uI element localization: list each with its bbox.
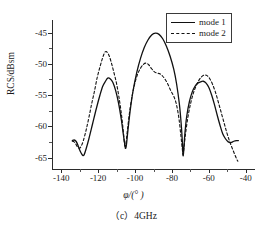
x-tick-label: -40 — [240, 174, 252, 183]
y-tick-minor — [49, 111, 52, 112]
y-tick — [48, 158, 52, 159]
legend-key-solid-icon — [171, 19, 195, 27]
legend-label-mode-1: mode 1 — [199, 18, 226, 27]
series-line-mode-1 — [72, 33, 238, 156]
x-axis-title-text: φ/(° ) — [123, 190, 143, 200]
x-tick-label: -80 — [166, 174, 178, 183]
x-tick-label: -60 — [203, 174, 215, 183]
x-tick-minor — [227, 169, 228, 172]
x-tick-minor — [190, 169, 191, 172]
x-axis-title: φ/(° ) — [0, 190, 267, 200]
x-tick-label: -120 — [90, 174, 107, 183]
y-tick — [48, 95, 52, 96]
y-tick — [48, 64, 52, 65]
y-tick-label: -65 — [35, 153, 47, 162]
x-tick-minor — [117, 169, 118, 172]
y-tick-label: -60 — [35, 122, 47, 131]
x-tick-minor — [80, 169, 81, 172]
legend-item-mode-1: mode 1 — [171, 17, 226, 28]
legend-item-mode-2: mode 2 — [171, 28, 226, 39]
x-tick-label: -100 — [127, 174, 144, 183]
figure-caption: （c）4GHz — [0, 208, 267, 222]
x-tick-minor — [154, 169, 155, 172]
figure-rcs-4ghz: -45-50-55-60-65-140-120-100-80-60-40 RCS… — [0, 0, 267, 228]
legend-label-mode-2: mode 2 — [199, 29, 226, 38]
y-tick — [48, 33, 52, 34]
y-tick-minor — [49, 142, 52, 143]
y-axis-line — [52, 20, 53, 170]
x-tick-label: -140 — [53, 174, 70, 183]
legend-key-dashed-icon — [171, 30, 195, 38]
y-tick — [48, 126, 52, 127]
y-axis-title: RCS/dBsm — [6, 52, 16, 95]
y-tick-label: -45 — [35, 28, 47, 37]
legend: mode 1 mode 2 — [166, 13, 232, 43]
y-tick-label: -55 — [35, 91, 47, 100]
y-tick-label: -50 — [35, 59, 47, 68]
y-tick-minor — [49, 79, 52, 80]
y-tick-minor — [49, 48, 52, 49]
